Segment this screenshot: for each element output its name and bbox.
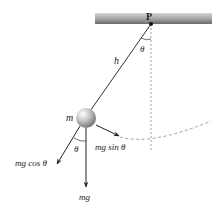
pivot-point	[149, 22, 153, 26]
tangential-force-arrow	[96, 125, 119, 136]
pendulum-string	[88, 24, 151, 114]
pivot-label: P	[146, 11, 152, 22]
angle-arc-top	[141, 38, 151, 40]
angle-arc-bottom	[74, 138, 86, 141]
radial-force-label: mg cos θ	[15, 158, 47, 168]
mass-label: m	[66, 112, 73, 123]
tangential-force-label: mg sin θ	[95, 142, 126, 152]
pendulum-diagram: P h θ m θ mg sin θ mg cos θ mg	[0, 0, 221, 209]
ceiling-support	[95, 13, 212, 24]
weight-label: mg	[79, 192, 90, 202]
length-label: h	[114, 55, 119, 66]
angle-label-top: θ	[140, 44, 145, 54]
angle-label-bottom: θ	[74, 144, 79, 154]
pendulum-bob	[76, 108, 96, 128]
swing-arc	[120, 121, 211, 139]
